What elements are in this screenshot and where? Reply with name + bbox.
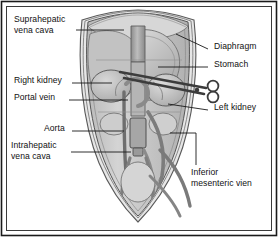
label-aorta: Aorta — [44, 123, 65, 134]
label-line: Portal vein — [14, 92, 55, 103]
label-line: Left kidney — [214, 102, 256, 113]
label-line: Diaphragm — [214, 41, 256, 52]
label-left-kidney: Left kidney — [214, 102, 256, 113]
label-line: vena cava — [11, 151, 57, 162]
label-line: vena cava — [14, 25, 65, 36]
label-line: Suprahepatic — [14, 14, 65, 25]
suprahepatic-vena-cava-vessel — [131, 26, 145, 62]
pelvic-viscera — [121, 162, 155, 202]
label-line: Aorta — [44, 123, 65, 134]
diagram-canvas: Suprahepatic vena cava Right kidney Port… — [0, 0, 278, 237]
label-portal-vein: Portal vein — [14, 92, 55, 103]
label-intrahepatic-vena-cava: Intrahepatic vena cava — [11, 140, 57, 162]
label-line: Inferior — [191, 167, 252, 178]
label-stomach: Stomach — [214, 59, 248, 70]
label-right-kidney: Right kidney — [14, 75, 62, 86]
aorta-vessel — [124, 92, 126, 172]
label-diaphragm: Diaphragm — [214, 41, 256, 52]
label-line: Right kidney — [14, 75, 62, 86]
label-inferior-mesenteric-vein: Inferior mesenteric vien — [191, 167, 252, 189]
label-line: Stomach — [214, 59, 248, 70]
cannula-tip — [133, 148, 143, 156]
label-line: mesenteric vien — [191, 178, 252, 189]
vena-cava-cannula — [130, 118, 146, 148]
label-suprahepatic-vena-cava: Suprahepatic vena cava — [14, 14, 65, 36]
label-line: Intrahepatic — [11, 140, 57, 151]
